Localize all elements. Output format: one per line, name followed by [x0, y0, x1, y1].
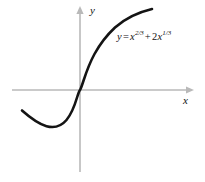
- graph-figure: y x y=x2/3+2x1/3: [0, 0, 205, 182]
- equation-term2-exponent: 1/3: [162, 29, 171, 37]
- x-axis-label: x: [183, 95, 188, 106]
- equation-equals: =: [122, 31, 130, 42]
- equation-annotation: y=x2/3+2x1/3: [117, 31, 171, 43]
- plot-canvas: [0, 0, 205, 182]
- y-axis-label: y: [90, 5, 95, 16]
- x-axis-arrow-icon: [186, 86, 194, 93]
- equation-plus: +: [144, 31, 152, 42]
- y-axis-arrow-icon: [76, 6, 83, 14]
- equation-term1-exponent: 2/3: [135, 29, 144, 37]
- function-curve: [22, 9, 152, 127]
